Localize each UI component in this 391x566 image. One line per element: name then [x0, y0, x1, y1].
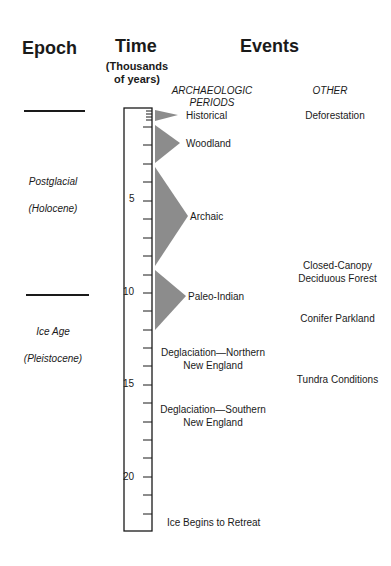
- time-scale-box: [124, 108, 152, 531]
- event-deglaciation-southern: Deglaciation—Southern New England: [158, 403, 268, 429]
- triangle-woodland: [155, 125, 180, 163]
- period-label-paleo-indian: Paleo-Indian: [188, 291, 244, 302]
- epoch-pleistocene: (Pleistocene): [18, 353, 88, 364]
- epoch-holocene: (Holocene): [18, 203, 88, 214]
- scale-label-5: 5: [129, 193, 135, 204]
- period-label-woodland: Woodland: [186, 138, 231, 149]
- event-deglaciation-northern: Deglaciation—Northern New England: [158, 346, 268, 372]
- scale-label-15: 15: [123, 378, 134, 389]
- triangle-historical: [155, 110, 178, 121]
- event-ice-begins-to-retreat: Ice Begins to Retreat: [167, 517, 260, 528]
- scale-label-20: 20: [123, 471, 134, 482]
- event-deforestation: Deforestation: [290, 110, 380, 121]
- period-label-historical: Historical: [186, 110, 227, 121]
- epoch-postglacial: Postglacial: [18, 176, 88, 187]
- scale-label-10: 10: [123, 286, 134, 297]
- epoch-ice-age: Ice Age: [18, 326, 88, 337]
- event-tundra-conditions: Tundra Conditions: [290, 374, 385, 385]
- period-triangles: [155, 110, 188, 330]
- time-scale-ticks: [143, 111, 152, 514]
- event-closed-canopy-forest: Closed-Canopy Deciduous Forest: [290, 259, 385, 285]
- period-label-archaic: Archaic: [190, 211, 223, 222]
- triangle-archaic: [155, 167, 188, 266]
- triangle-paleo-indian: [155, 270, 186, 330]
- event-conifer-parkland: Conifer Parkland: [290, 313, 385, 324]
